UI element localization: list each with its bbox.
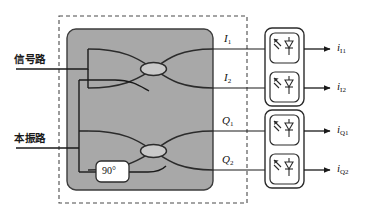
current-label-iq2: iQ2	[337, 163, 349, 174]
current-label-ii2: iI2	[337, 81, 346, 92]
current-label-ii1: iI1	[337, 42, 346, 53]
hybrid-output-label-q2: Q2	[222, 154, 233, 165]
phase-shifter-label: 90°	[102, 166, 116, 176]
input-label-signal: 信号路	[14, 54, 46, 65]
coupler-core-i	[141, 63, 167, 76]
coupler-core-q	[141, 145, 167, 158]
photodiode-box-i2[interactable]	[270, 72, 299, 102]
input-label-lo: 本振路	[14, 133, 46, 144]
hybrid-output-label-q1: Q1	[222, 115, 233, 126]
photonic-chip-body	[67, 29, 213, 190]
photodiode-box-q1[interactable]	[270, 115, 299, 145]
hybrid-output-label-i1: I1	[224, 33, 231, 44]
photodiode-box-i1[interactable]	[270, 33, 299, 63]
current-label-iq1: iQ1	[337, 124, 349, 135]
optical-hybrid-diagram	[0, 0, 368, 219]
photodiode-box-q2[interactable]	[270, 154, 299, 184]
hybrid-output-label-i2: I2	[224, 72, 231, 83]
